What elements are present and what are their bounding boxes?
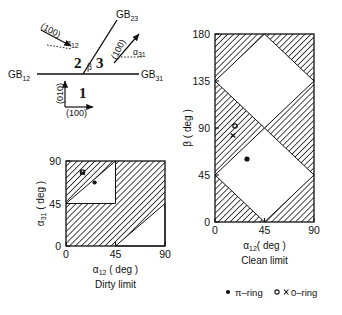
alpha12-label: α12 <box>66 38 79 49</box>
gb12-label: GB12 <box>8 69 30 82</box>
clean-xaxis-label: α12( deg ) <box>243 240 285 252</box>
clean-ytick-label-0: 0 <box>204 216 210 228</box>
dirty-limit-caption: Dirty limit <box>95 279 136 290</box>
dirty-ytick-label-0: 0 <box>55 240 61 252</box>
figure-legend: π–ring 0–ring <box>226 287 318 298</box>
grain-3-label: 3 <box>96 55 104 71</box>
clean-xtick-label-0: 0 <box>212 224 218 236</box>
figure-svg: GB12 GB31 GB23 2 3 1 β (010) (100) (100)… <box>0 0 342 315</box>
legend-filled-dot-icon <box>226 290 230 294</box>
grain-2-label: 2 <box>74 55 82 71</box>
dirty-xtick-label-45: 45 <box>110 248 122 260</box>
dirty-xtick-label-0: 0 <box>63 248 69 260</box>
grain-1-label: 1 <box>79 85 87 101</box>
beta-angle-label: β <box>87 62 92 72</box>
figure-root: GB12 GB31 GB23 2 3 1 β (010) (100) (100)… <box>0 0 342 315</box>
dirty-ytick-label-45: 45 <box>49 198 61 210</box>
legend-zero-ring-label: 0–ring <box>291 287 317 298</box>
legend-pi-ring-label: π–ring <box>235 287 263 298</box>
tricrystal-schematic: GB12 GB31 GB23 2 3 1 β (010) (100) (100)… <box>8 9 163 118</box>
dirty-ytick-label-90: 90 <box>49 155 61 167</box>
gb23-label: GB23 <box>116 9 138 22</box>
dirty-filled-dot-marker <box>93 180 97 184</box>
clean-ytick-label-45: 45 <box>198 169 210 181</box>
clean-limit-plot: 0 45 90 0 45 90 135 180 α12( deg ) β ( d… <box>182 28 320 266</box>
grain1-100-label: (100) <box>66 108 87 118</box>
clean-yaxis-label: β ( deg ) <box>182 109 193 146</box>
gb31-label: GB31 <box>141 69 163 82</box>
alpha31-label: α31 <box>133 47 146 58</box>
clean-xtick-label-45: 45 <box>259 224 271 236</box>
clean-xtick-label-90: 90 <box>308 224 320 236</box>
clean-ytick-label-135: 135 <box>192 75 210 87</box>
clean-ytick-label-180: 180 <box>192 28 210 40</box>
dirty-xtick-label-90: 90 <box>159 248 171 260</box>
clean-limit-caption: Clean limit <box>241 255 288 266</box>
grain3-100-label: (100) <box>109 38 128 61</box>
legend-cross-icon <box>284 290 288 295</box>
grain2-100-label: (100) <box>39 21 62 40</box>
grain1-010-label: (010) <box>55 83 65 104</box>
dirty-limit-plot: 0 45 90 0 45 90 α12 ( deg ) α31 ( deg ) … <box>35 155 171 290</box>
legend-open-circle-icon <box>275 290 279 294</box>
clean-filled-dot-marker <box>244 156 249 161</box>
dirty-xaxis-label: α12 ( deg ) <box>93 264 138 276</box>
clean-ytick-label-90: 90 <box>198 122 210 134</box>
dirty-yaxis-label: α31 ( deg ) <box>35 181 47 226</box>
